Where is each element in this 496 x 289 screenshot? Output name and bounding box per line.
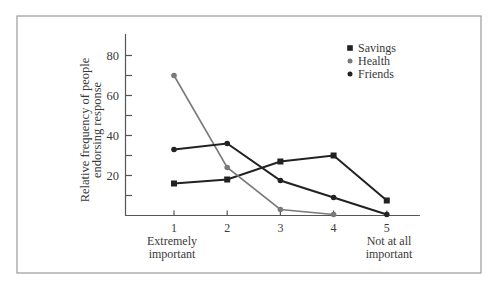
legend-label: Health	[358, 54, 390, 68]
x-right-label-line-1: Not at all	[367, 234, 412, 248]
circle-marker-icon	[171, 147, 177, 153]
square-marker-icon	[224, 177, 230, 183]
legend-item-health: Health	[348, 54, 391, 68]
square-marker-icon	[277, 159, 283, 165]
circle-marker-icon	[224, 141, 230, 147]
legend-label: Friends	[358, 67, 394, 81]
circle-marker-icon	[278, 178, 284, 184]
x-tick-label: 5	[384, 221, 390, 235]
circle-marker-icon	[224, 165, 230, 171]
x-right-label-line-2: important	[366, 247, 413, 261]
chart-figure: 20406080 12345 Relative frequency of peo…	[0, 0, 496, 289]
series-friends	[171, 141, 389, 218]
x-tick-label: 2	[224, 221, 230, 235]
x-tick-label: 4	[331, 221, 337, 235]
legend-item-savings: Savings	[347, 41, 396, 55]
legend-label: Savings	[358, 41, 396, 55]
x-tick-label: 1	[171, 221, 177, 235]
square-marker-icon	[171, 181, 177, 187]
circle-marker-icon	[171, 73, 177, 79]
legend: SavingsHealthFriends	[347, 41, 396, 81]
circle-marker-icon	[331, 195, 337, 201]
y-tick-label: 20	[107, 169, 120, 183]
x-end-labels: Extremely important Not at all important	[147, 234, 413, 261]
x-left-label-line-2: important	[149, 247, 196, 261]
y-ticks: 20406080	[107, 49, 133, 196]
legend-item-friends: Friends	[348, 67, 395, 81]
x-ticks: 12345	[171, 211, 390, 236]
circle-marker-icon	[384, 212, 390, 218]
circle-marker-icon	[278, 207, 284, 213]
y-tick-label: 60	[107, 89, 120, 103]
circle-marker-icon	[348, 72, 353, 77]
line-chart: 20406080 12345 Relative frequency of peo…	[0, 0, 496, 289]
circle-marker-icon	[331, 212, 337, 218]
series-health	[171, 73, 336, 218]
square-marker-icon	[331, 153, 337, 159]
series-layer	[171, 73, 390, 218]
y-tick-label: 80	[107, 49, 120, 63]
square-marker-icon	[384, 198, 390, 204]
y-tick-label: 40	[107, 129, 120, 143]
square-marker-icon	[347, 45, 353, 51]
circle-marker-icon	[348, 59, 353, 64]
x-tick-label: 3	[277, 221, 283, 235]
y-axis-label: Relative frequency of people endorsing r…	[78, 57, 104, 202]
series-line	[174, 76, 334, 215]
x-left-label-line-1: Extremely	[147, 234, 197, 248]
y-axis-label-line-2: endorsing response	[90, 81, 104, 178]
